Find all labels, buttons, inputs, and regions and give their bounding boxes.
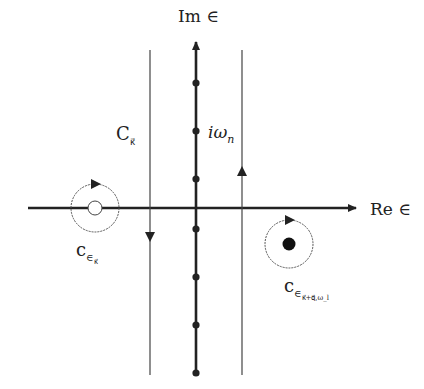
imaginary-axis-label: Im ∈ <box>178 6 219 26</box>
open-pole <box>88 201 102 215</box>
right-arrow-icon <box>285 215 295 225</box>
contour-diagram: Im ∈ Re ∈ iωn Cκ⃗ c∈κ⃗ c∈κ⃗+q⃗,ω_l <box>0 0 424 389</box>
up-arrow-icon <box>237 166 247 176</box>
left-contour-label: c∈κ⃗ <box>76 239 98 266</box>
right-arrow-icon <box>91 179 101 189</box>
real-axis-label: Re ∈ <box>370 199 411 219</box>
main-contour-label: Cκ⃗ <box>116 123 136 147</box>
matsubara-label: iωn <box>208 122 234 146</box>
filled-pole <box>283 238 296 251</box>
down-arrow-icon <box>145 232 155 242</box>
right-contour-label: c∈κ⃗+q⃗,ω_l <box>284 275 330 302</box>
